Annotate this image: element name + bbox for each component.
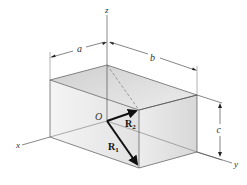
origin-label: O bbox=[95, 111, 102, 122]
dimension-a: a bbox=[50, 42, 107, 58]
box-faces bbox=[50, 65, 197, 168]
diagram-canvas: a b c z x y O R2 R1 bbox=[0, 0, 247, 185]
axis-label-x: x bbox=[15, 140, 20, 150]
label-b: b bbox=[150, 52, 155, 63]
label-c: c bbox=[217, 124, 222, 135]
dimension-c: c bbox=[217, 103, 223, 157]
x-axis bbox=[22, 137, 50, 145]
dimension-b: b bbox=[109, 42, 197, 71]
axis-label-y: y bbox=[233, 159, 238, 169]
axis-label-z: z bbox=[104, 5, 109, 15]
box-vector-diagram: a b c z x y O R2 R1 bbox=[0, 0, 247, 185]
label-a: a bbox=[77, 43, 82, 54]
